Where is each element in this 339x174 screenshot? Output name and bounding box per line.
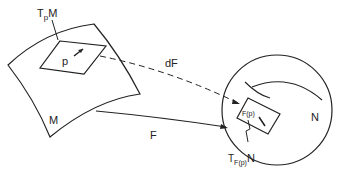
N-inner-arc-2 [252, 82, 322, 100]
tangent-plane-pointer [52, 20, 58, 40]
diagram-canvas: TpM p M dF F N F(p) TF(p)N [0, 0, 339, 174]
N-inner-arc-1 [245, 82, 270, 98]
label-TFpN: TF(p)N [228, 152, 255, 167]
image-vector-arrow [259, 117, 265, 126]
manifold-N-circle [222, 55, 332, 165]
label-dF: dF [165, 57, 178, 69]
label-p: p [62, 55, 68, 67]
label-TpM: TpM [37, 7, 57, 22]
F-arrow [96, 111, 226, 127]
label-N: N [311, 111, 319, 123]
label-M: M [49, 114, 58, 126]
dF-arrowhead [232, 99, 240, 104]
label-F: F [150, 129, 157, 141]
manifold-M-surface [8, 24, 140, 137]
label-Fp: F(p) [242, 110, 255, 118]
tangent-plane-TpM [40, 41, 106, 74]
